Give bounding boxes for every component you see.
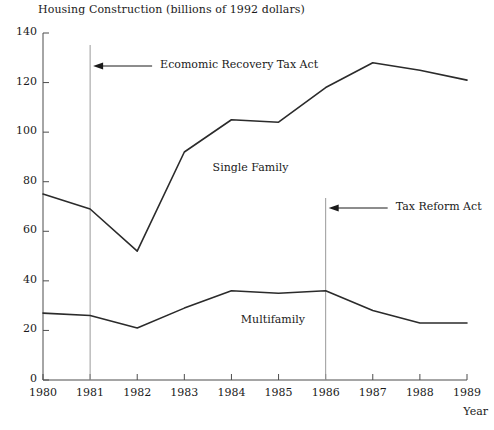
x-axis-tick-label: 1983	[162, 386, 206, 399]
y-axis-tick-label: 100	[7, 124, 37, 137]
series-inline-label: Single Family	[213, 161, 289, 174]
y-axis-tick-label: 80	[7, 174, 37, 187]
x-axis-tick-label: 1985	[257, 386, 301, 399]
y-axis-tick-label: 20	[7, 322, 37, 335]
x-axis-tick-label: 1986	[304, 386, 348, 399]
annotation-label: Tax Reform Act	[396, 200, 482, 213]
annotation-arrow-head	[93, 62, 103, 69]
y-axis-tick-label: 0	[7, 372, 37, 385]
x-axis-tick-label: 1987	[351, 386, 395, 399]
data-series	[43, 63, 467, 328]
x-axis-tick-label: 1989	[445, 386, 489, 399]
series-line	[43, 63, 467, 251]
series-inline-label: Multifamily	[241, 313, 305, 326]
housing-construction-chart: Housing Construction (billions of 1992 d…	[0, 0, 494, 430]
event-marker-lines	[90, 45, 326, 380]
x-axis-tick-label: 1981	[68, 386, 112, 399]
y-axis-tick-label: 120	[7, 75, 37, 88]
x-axis-title: Year	[463, 405, 488, 418]
annotation-label: Ecomomic Recovery Tax Act	[160, 58, 318, 71]
x-axis-tick-label: 1988	[398, 386, 442, 399]
annotation-arrows	[93, 62, 388, 211]
x-axis-tick-label: 1982	[115, 386, 159, 399]
y-axis-tick-label: 140	[7, 25, 37, 38]
y-axis-tick-label: 60	[7, 223, 37, 236]
y-axis-tick-label: 40	[7, 273, 37, 286]
annotation-arrow-head	[329, 204, 339, 211]
x-axis-tick-label: 1980	[21, 386, 65, 399]
x-axis-tick-label: 1984	[209, 386, 253, 399]
